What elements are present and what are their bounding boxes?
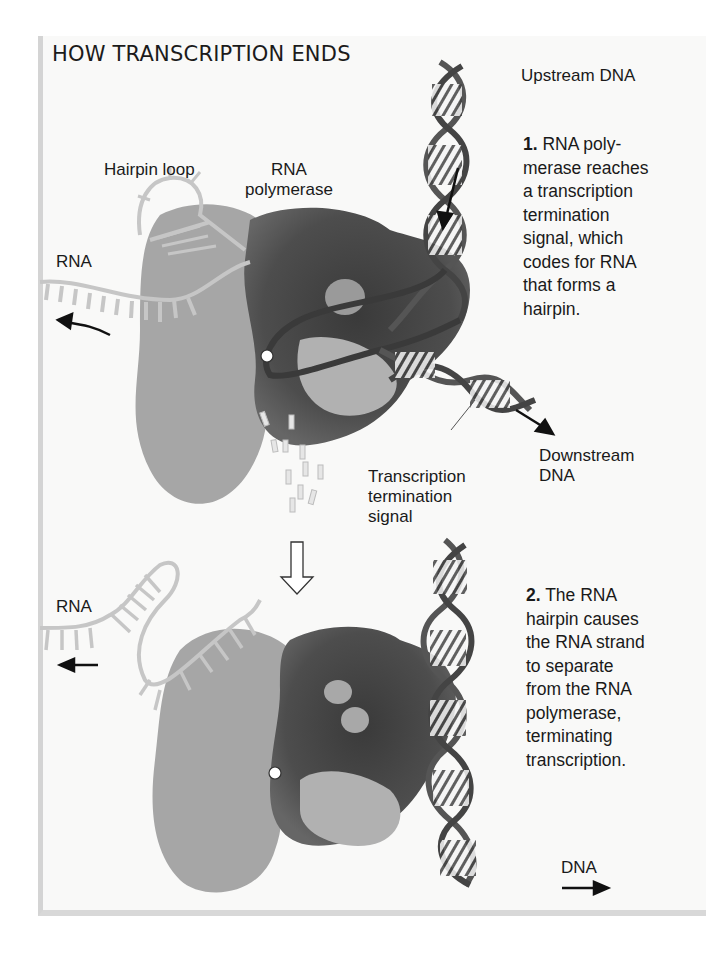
step-2-line-4: from the RNA [526,679,632,699]
step-1-line-0: RNA poly- [542,134,621,154]
panel-2-illustration [40,540,608,894]
step-2-line-2: the RNA strand [526,632,645,652]
arrow-rna-out-1 [58,314,110,335]
label-downstream-line1: Downstream [539,446,634,466]
step-2-line-5: polymerase, [526,703,621,723]
step-1-number: 1. [523,134,538,154]
step-1-line-6: that forms a [523,275,615,295]
label-termination-line1: Transcription [368,467,466,487]
step-2-line-3: to separate [526,656,614,676]
step-2-line-7: transcription. [526,750,626,770]
arrow-downstream-1 [516,410,553,434]
arrow-rna-out-2 [60,659,98,671]
label-termination-line2: termination [368,487,466,507]
arrow-dna-out-2 [562,882,608,894]
step-1-line-2: a transcription [523,181,633,201]
step-2-line-0: The RNA [545,585,617,605]
step-2-line-6: terminating [526,726,613,746]
step-1-line-3: termination [523,205,610,225]
label-rna-polymerase-line1: RNA [241,160,337,180]
label-termination-line3: signal [368,507,466,527]
label-downstream-line2: DNA [539,466,634,486]
step-2-line-1: hairpin causes [526,609,639,629]
step-1-line-5: codes for RNA [523,252,637,272]
active-site-dot-1 [261,350,273,362]
label-termination-signal: Transcription termination signal [368,467,466,527]
active-site-dot-2 [269,767,281,779]
figure-title: HOW TRANSCRIPTION ENDS [52,42,351,66]
step-1-line-7: hairpin. [523,299,580,319]
termination-signal-pointer [451,400,475,430]
step-2-number: 2. [526,585,541,605]
label-rna-1: RNA [56,252,92,272]
panel-1-illustration [40,62,553,512]
label-upstream-dna: Upstream DNA [521,66,635,86]
label-rna-2: RNA [56,597,92,617]
step-1-line-4: signal, which [523,228,623,248]
label-dna-2: DNA [561,858,597,878]
label-downstream-dna: Downstream DNA [539,446,634,486]
label-hairpin-loop: Hairpin loop [104,160,195,180]
label-rna-polymerase-line2: polymerase [241,180,337,200]
dna-helix-2 [424,540,476,885]
step-2-description: 2. The RNA hairpin causes the RNA strand… [526,584,706,772]
label-rna-polymerase: RNA polymerase [241,160,337,200]
step-1-line-1: merase reaches [523,158,648,178]
step-1-description: 1. RNA poly- merase reaches a transcript… [523,133,703,321]
process-arrow-down [281,542,313,594]
